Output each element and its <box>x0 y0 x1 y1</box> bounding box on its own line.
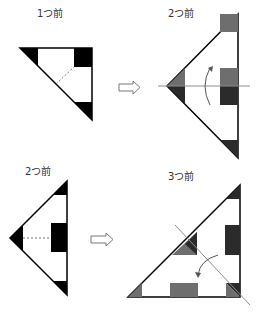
folding-diagram <box>0 0 258 312</box>
triangle-panel-2 <box>158 14 250 158</box>
outline-right-arrow-icon <box>91 233 113 246</box>
outline-right-arrow-icon <box>119 81 140 94</box>
triangle-panel-1 <box>20 48 92 120</box>
triangle-panel-3 <box>10 181 67 295</box>
triangle-panel-4 <box>128 185 250 305</box>
